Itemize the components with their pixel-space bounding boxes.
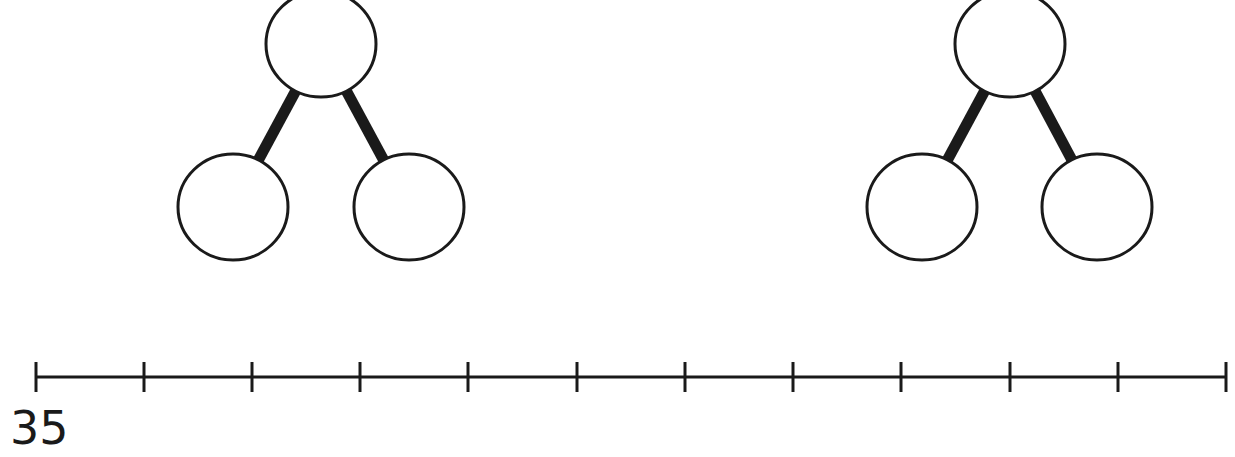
tick-label: 35 bbox=[10, 405, 69, 451]
bond-circle-right[interactable] bbox=[1042, 154, 1152, 260]
number-bond bbox=[867, 0, 1152, 260]
bond-circle-top[interactable] bbox=[266, 0, 376, 97]
bond-connector-right bbox=[346, 91, 384, 161]
number-line bbox=[36, 362, 1226, 392]
number-bond bbox=[178, 0, 464, 260]
bond-circle-left[interactable] bbox=[178, 154, 288, 260]
bond-circle-top[interactable] bbox=[955, 0, 1065, 97]
bond-circle-right[interactable] bbox=[354, 154, 464, 260]
number-bonds-group bbox=[178, 0, 1152, 260]
bond-connector-left bbox=[258, 91, 296, 161]
bond-circle-left[interactable] bbox=[867, 154, 977, 260]
bond-connector-left bbox=[947, 91, 985, 161]
bond-connector-right bbox=[1035, 91, 1072, 160]
worksheet-diagram: 35 bbox=[0, 0, 1235, 457]
diagram-canvas bbox=[0, 0, 1235, 457]
